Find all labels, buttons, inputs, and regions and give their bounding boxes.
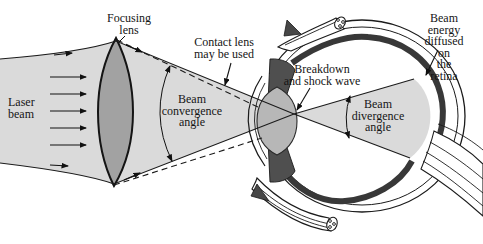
label-beam-convergence-angle: Beam convergence angle bbox=[162, 94, 222, 129]
label-breakdown-shock-wave: Breakdown and shock wave bbox=[284, 64, 361, 87]
muscle-tendon-top bbox=[284, 20, 301, 36]
laser-beam-cone bbox=[0, 41, 294, 184]
label-beam-divergence-angle: Beam divergence angle bbox=[352, 99, 404, 134]
label-beam-energy-retina: Beam energy diffused on the retina bbox=[424, 13, 463, 82]
laser-eye-diagram: Focusing lens Laser beam Contact lens ma… bbox=[0, 0, 483, 244]
focusing-lens-leader bbox=[119, 36, 125, 42]
label-laser-beam: Laser beam bbox=[8, 97, 35, 120]
label-contact-lens: Contact lens may be used bbox=[194, 37, 254, 60]
optic-nerve-body bbox=[421, 131, 483, 216]
label-focusing-lens: Focusing lens bbox=[107, 13, 151, 36]
contact-lens-arrow bbox=[225, 63, 231, 85]
